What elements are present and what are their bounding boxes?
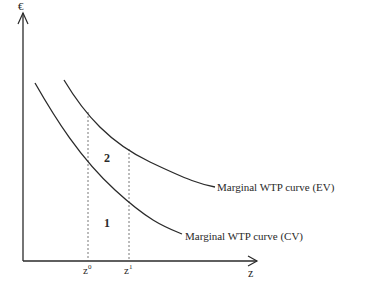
x-axis-label: z — [248, 266, 253, 280]
region-2-label: 2 — [104, 151, 110, 165]
z1-tick-label: z1 — [124, 263, 133, 276]
y-axis-label: € — [18, 0, 24, 12]
z1-sup: 1 — [129, 263, 133, 271]
ev-curve-label: Marginal WTP curve (EV) — [217, 181, 335, 194]
cv-curve-label: Marginal WTP curve (CV) — [185, 230, 303, 243]
z0-sup: 0 — [88, 263, 92, 271]
wtp-diagram: € z Marginal WTP curve (EV) Marginal WTP… — [0, 0, 372, 292]
ev-curve — [64, 80, 215, 187]
region-1-label: 1 — [104, 216, 110, 230]
z0-tick-label: z0 — [83, 263, 92, 276]
